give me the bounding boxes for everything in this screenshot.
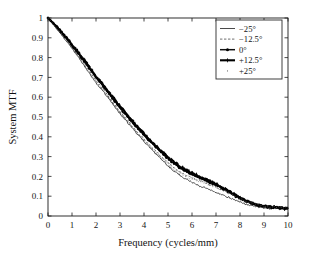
y-tick-label: 1 <box>39 13 44 23</box>
legend-sample-marker <box>226 48 229 51</box>
mtf-chart-figure: 01234567891000.10.20.30.40.50.60.70.80.9… <box>0 0 315 258</box>
x-tick-label: 10 <box>284 220 294 230</box>
x-tick-label: 9 <box>262 220 267 230</box>
y-axis-title: System MTF <box>7 89 18 144</box>
chart-legend: −25°−12.5°0°+12.5°+25° <box>216 20 282 79</box>
x-tick-label: 0 <box>46 220 51 230</box>
y-tick-label: 0.7 <box>32 73 44 83</box>
legend-sample-dot <box>227 70 228 71</box>
y-tick-label: 0.9 <box>32 33 44 43</box>
x-tick-label: 1 <box>70 220 75 230</box>
x-tick-label: 4 <box>142 220 147 230</box>
x-tick-label: 8 <box>238 220 243 230</box>
legend-label: 0° <box>239 45 247 55</box>
x-tick-label: 3 <box>118 220 123 230</box>
y-tick-label: 0.5 <box>32 112 44 122</box>
y-tick-label: 0 <box>39 211 44 221</box>
y-tick-label: 0.3 <box>32 152 44 162</box>
y-tick-label: 0.2 <box>32 172 43 182</box>
x-tick-label: 7 <box>214 220 219 230</box>
y-tick-label: 0.4 <box>32 132 44 142</box>
legend-label: −12.5° <box>239 34 263 44</box>
legend-label: +25° <box>239 66 256 76</box>
x-tick-label: 2 <box>94 220 99 230</box>
y-tick-label: 0.8 <box>32 53 44 63</box>
y-tick-label: 0.1 <box>32 191 43 201</box>
x-tick-label: 6 <box>190 220 195 230</box>
y-tick-label: 0.6 <box>32 92 44 102</box>
chart-canvas: 01234567891000.10.20.30.40.50.60.70.80.9… <box>0 0 315 258</box>
legend-label: −25° <box>239 24 256 34</box>
x-tick-label: 5 <box>166 220 171 230</box>
legend-label: +12.5° <box>239 55 263 65</box>
x-axis-title: Frequency (cycles/mm) <box>118 237 218 249</box>
